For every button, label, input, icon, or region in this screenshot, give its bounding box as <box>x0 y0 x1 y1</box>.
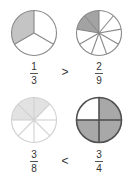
pie-two-ninths <box>75 9 123 57</box>
denominator: 8 <box>26 164 42 174</box>
fraction-one-third: 1 3 <box>26 62 42 86</box>
pie-one-third <box>10 9 58 57</box>
greater-than-sign: > <box>58 66 72 78</box>
numerator: 3 <box>26 150 42 160</box>
denominator: 4 <box>91 164 107 174</box>
denominator: 3 <box>26 76 42 86</box>
less-than-sign: < <box>58 155 72 167</box>
fraction-bar <box>30 73 38 74</box>
pie-three-quarters <box>75 96 123 144</box>
fraction-bar <box>95 161 103 162</box>
fraction-two-ninths: 2 9 <box>91 62 107 86</box>
fraction-three-eighths: 3 8 <box>26 150 42 174</box>
pie-three-eighths <box>10 96 58 144</box>
numerator: 1 <box>26 62 42 72</box>
fraction-bar <box>95 73 103 74</box>
numerator: 3 <box>91 150 107 160</box>
numerator: 2 <box>91 62 107 72</box>
fraction-bar <box>30 161 38 162</box>
denominator: 9 <box>91 76 107 86</box>
fraction-three-quarters: 3 4 <box>91 150 107 174</box>
